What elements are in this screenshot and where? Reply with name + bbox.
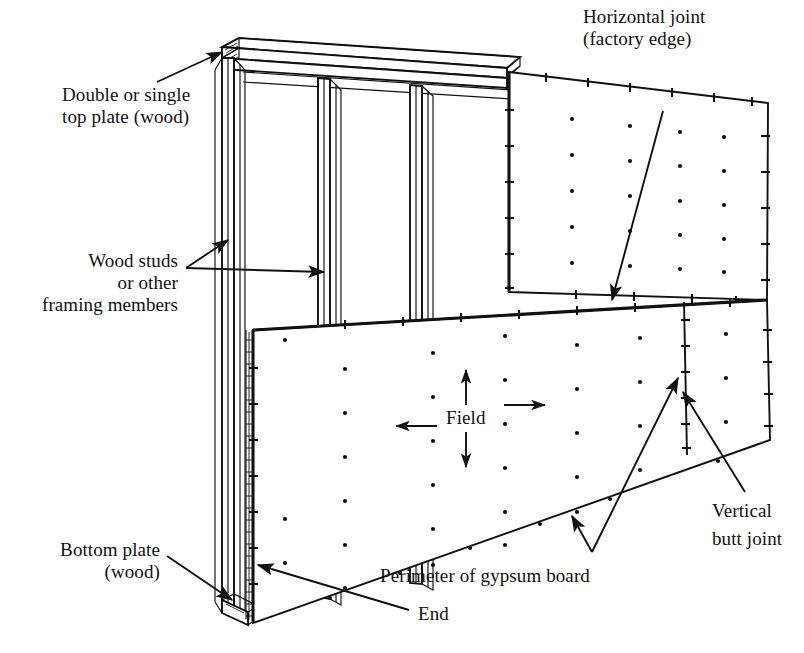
framing-left-outer-top <box>215 58 222 70</box>
bottom-plate-front-face <box>222 600 248 625</box>
framing-left-outer-bottom <box>215 602 222 613</box>
upper-gypsum-panel <box>505 72 770 305</box>
perimeter-leader-a <box>572 516 592 552</box>
top-plate-label-line1: Double or single <box>62 84 190 105</box>
end-label: End <box>418 603 449 624</box>
double-or-single-top-plate <box>222 38 520 99</box>
horizontal-joint-label-line2: (factory edge) <box>583 28 691 50</box>
upper-panel-outline <box>509 72 768 300</box>
wood-studs-label-line1: Wood studs <box>88 250 178 271</box>
bottom-plate-label-line1: Bottom plate <box>60 539 160 560</box>
wood-stud-corner-post <box>222 58 245 620</box>
wall-assembly-drawing: Double or single top plate (wood) Wood s… <box>0 0 804 653</box>
top-plate-back-edge-2 <box>512 66 520 72</box>
top-plate-label-line2: top plate (wood) <box>62 106 189 128</box>
top-plate-leader <box>157 52 222 82</box>
horizontal-joint-label-line1: Horizontal joint <box>583 6 706 27</box>
vertical-butt-joint-label-line1: Vertical <box>712 500 772 521</box>
perimeter-label: Perimeter of gypsum board <box>380 565 590 586</box>
wood-studs-leader-b <box>186 268 324 272</box>
wood-studs-label-line2: or other <box>118 272 179 293</box>
field-label: Field <box>446 407 486 428</box>
figure-canvas: Double or single top plate (wood) Wood s… <box>0 0 804 653</box>
wood-studs-label-line3: framing members <box>42 294 178 315</box>
bottom-plate-label-line2: (wood) <box>105 561 160 583</box>
vertical-butt-joint-label-line2: butt joint <box>712 528 783 549</box>
